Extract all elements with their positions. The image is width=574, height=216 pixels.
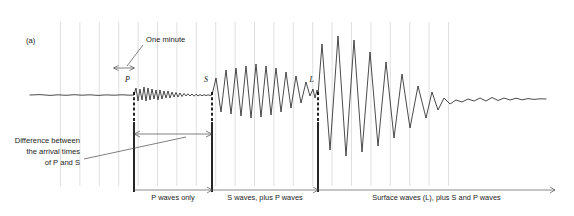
- phase-label-P: P: [124, 75, 130, 84]
- segment-label-p-waves-only: P waves only: [151, 193, 195, 202]
- seismogram-figure: (a) One minute PSL Difference between th…: [0, 0, 574, 216]
- difference-label-line2: the arrival times: [26, 147, 80, 156]
- panel-label: (a): [26, 36, 36, 45]
- phase-label-L: L: [309, 75, 315, 84]
- difference-label-line1: Difference between: [15, 136, 80, 145]
- segment-label-surface-waves: Surface waves (L), plus S and P waves: [372, 193, 501, 202]
- figure-background: [0, 0, 574, 216]
- phase-label-S: S: [204, 75, 208, 84]
- one-minute-label: One minute: [146, 35, 185, 44]
- difference-label-line3: of P and S: [45, 158, 80, 167]
- segment-label-s-plus-p-waves: S waves, plus P waves: [227, 193, 303, 202]
